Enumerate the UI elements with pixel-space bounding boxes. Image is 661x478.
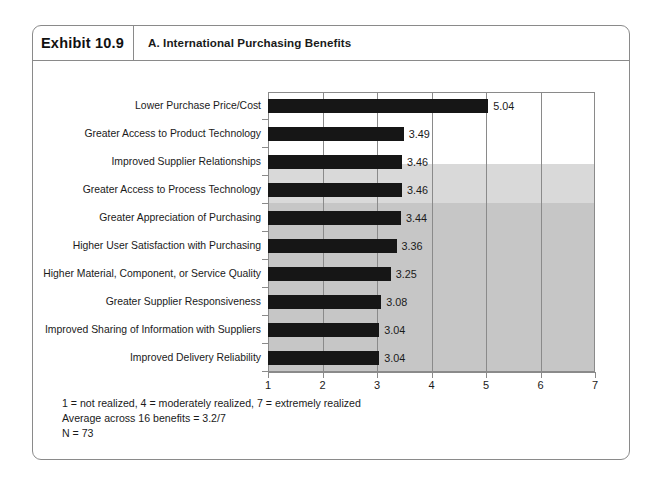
bar-value-label: 3.04 bbox=[384, 316, 405, 344]
x-axis-tick-6 bbox=[541, 372, 542, 378]
x-axis-label-6: 6 bbox=[526, 379, 556, 391]
exhibit-number: Exhibit 10.9 bbox=[32, 25, 134, 60]
bar-value-label: 3.25 bbox=[396, 260, 417, 288]
category-label: Greater Access to Process Technology bbox=[83, 176, 261, 204]
bar-value-label: 3.46 bbox=[407, 148, 428, 176]
x-axis-tick-4 bbox=[432, 372, 433, 378]
category-label: Higher User Satisfaction with Purchasing bbox=[73, 232, 261, 260]
category-label: Improved Sharing of Information with Sup… bbox=[45, 316, 261, 344]
category-label: Greater Access to Product Technology bbox=[84, 120, 261, 148]
category-label: Greater Supplier Responsiveness bbox=[106, 288, 261, 316]
x-axis-label-2: 2 bbox=[308, 379, 338, 391]
category-label: Improved Supplier Relationships bbox=[111, 148, 261, 176]
bar-value-label: 3.44 bbox=[406, 204, 427, 232]
bar-value-label: 3.49 bbox=[409, 120, 430, 148]
category-label: Greater Appreciation of Purchasing bbox=[99, 204, 261, 232]
bar bbox=[268, 155, 402, 169]
x-axis-label-4: 4 bbox=[417, 379, 447, 391]
footnote-sample-size: N = 73 bbox=[62, 426, 522, 441]
bar-row: Greater Supplier Responsiveness3.08 bbox=[0, 288, 661, 316]
category-label: Improved Delivery Reliability bbox=[130, 344, 261, 372]
bar bbox=[268, 99, 488, 113]
bar bbox=[268, 295, 381, 309]
footnotes: 1 = not realized, 4 = moderately realize… bbox=[62, 396, 522, 441]
bar-row: Greater Appreciation of Purchasing3.44 bbox=[0, 204, 661, 232]
bar-row: Greater Access to Process Technology3.46 bbox=[0, 176, 661, 204]
bar-row: Improved Sharing of Information with Sup… bbox=[0, 316, 661, 344]
x-axis-label-1: 1 bbox=[253, 379, 283, 391]
bar bbox=[268, 351, 379, 365]
footnote-scale: 1 = not realized, 4 = moderately realize… bbox=[62, 396, 522, 411]
bar-row: Lower Purchase Price/Cost5.04 bbox=[0, 92, 661, 120]
x-axis-tick-1 bbox=[268, 372, 269, 378]
category-label: Lower Purchase Price/Cost bbox=[135, 92, 261, 120]
bar-row: Higher User Satisfaction with Purchasing… bbox=[0, 232, 661, 260]
bar bbox=[268, 127, 404, 141]
bar bbox=[268, 267, 391, 281]
bar-row: Improved Supplier Relationships3.46 bbox=[0, 148, 661, 176]
x-axis-label-3: 3 bbox=[362, 379, 392, 391]
bar-value-label: 3.36 bbox=[402, 232, 423, 260]
bar-value-label: 3.08 bbox=[386, 288, 407, 316]
x-axis-label-5: 5 bbox=[471, 379, 501, 391]
x-axis-label-7: 7 bbox=[580, 379, 610, 391]
bar-row: Greater Access to Product Technology3.49 bbox=[0, 120, 661, 148]
bar-row: Higher Material, Component, or Service Q… bbox=[0, 260, 661, 288]
x-axis-tick-2 bbox=[323, 372, 324, 378]
bar-value-label: 3.04 bbox=[384, 344, 405, 372]
bar bbox=[268, 211, 401, 225]
bar-row: Improved Delivery Reliability3.04 bbox=[0, 344, 661, 372]
exhibit-screenshot: Exhibit 10.9 A. International Purchasing… bbox=[0, 0, 661, 478]
exhibit-title: A. International Purchasing Benefits bbox=[134, 36, 351, 49]
bar bbox=[268, 183, 402, 197]
footnote-average: Average across 16 benefits = 3.2/7 bbox=[62, 411, 522, 426]
bar-value-label: 5.04 bbox=[493, 92, 514, 120]
x-axis-tick-7 bbox=[595, 372, 596, 378]
bar-rows: Lower Purchase Price/Cost5.04Greater Acc… bbox=[0, 92, 661, 372]
x-axis-tick-5 bbox=[486, 372, 487, 378]
bar bbox=[268, 323, 379, 337]
category-label: Higher Material, Component, or Service Q… bbox=[43, 260, 261, 288]
bar bbox=[268, 239, 397, 253]
bar-value-label: 3.46 bbox=[407, 176, 428, 204]
x-axis-tick-3 bbox=[377, 372, 378, 378]
exhibit-header: Exhibit 10.9 A. International Purchasing… bbox=[32, 25, 630, 61]
